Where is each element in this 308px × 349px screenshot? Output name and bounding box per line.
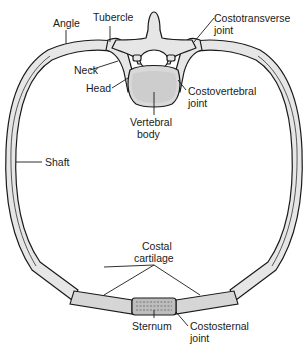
right-rib — [190, 40, 302, 300]
right-costal-cartilage — [176, 291, 238, 314]
label-costotransverse-2: joint — [213, 24, 233, 36]
label-neck: Neck — [74, 64, 99, 76]
label-head: Head — [86, 82, 111, 94]
label-costal-2: cartilage — [134, 252, 174, 264]
label-tubercle: Tubercle — [93, 11, 134, 23]
label-costosternal-1: Costosternal — [190, 320, 249, 332]
left-costal-cartilage — [70, 291, 132, 314]
rib-anatomy-diagram: Angle Tubercle Neck Head Costotransverse… — [0, 0, 308, 349]
label-costotransverse-1: Costotransverse — [214, 12, 291, 24]
label-shaft: Shaft — [45, 156, 70, 168]
label-costovertebral-1: Costovertebral — [188, 85, 256, 97]
label-costal-1: Costal — [142, 240, 172, 252]
label-costovertebral-2: joint — [187, 97, 207, 109]
label-costosternal-2: joint — [189, 332, 209, 344]
label-vertebral-2: body — [137, 128, 161, 140]
label-sternum: Sternum — [132, 320, 172, 332]
left-rib — [6, 40, 118, 300]
label-angle: Angle — [53, 17, 80, 29]
label-vertebral-1: Vertebral — [130, 116, 172, 128]
